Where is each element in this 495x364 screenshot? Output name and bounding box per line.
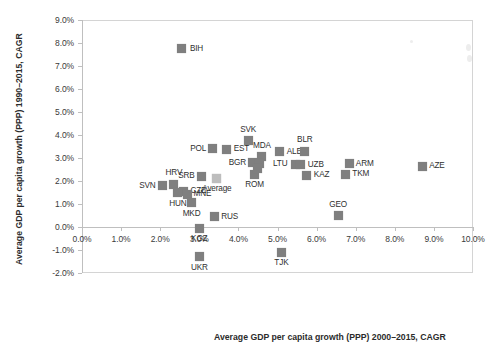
y-axis-tick-label: 7.0% <box>38 61 74 71</box>
data-point-marker <box>208 144 217 153</box>
data-point-marker <box>277 248 286 257</box>
data-point-label: SVK <box>239 125 257 134</box>
data-point-marker <box>173 188 182 197</box>
y-axis-tick <box>78 43 82 44</box>
data-point-marker <box>195 224 204 233</box>
data-point-label: MKD <box>183 209 201 218</box>
y-axis-tick <box>78 250 82 251</box>
y-axis-tick <box>78 20 82 21</box>
x-axis-tick <box>473 227 474 231</box>
x-axis-tick-label: 5.0% <box>256 234 300 244</box>
x-axis-tick <box>317 227 318 231</box>
y-axis-tick <box>78 66 82 67</box>
y-axis-tick <box>78 181 82 182</box>
data-point-label: BLR <box>296 135 314 144</box>
data-point-label: GEO <box>329 200 347 209</box>
scan-artifact <box>467 55 472 62</box>
average-marker <box>212 174 221 183</box>
data-point-marker <box>300 147 309 156</box>
data-point-label: UZB <box>307 160 325 169</box>
data-point-label: TJK <box>273 258 291 267</box>
data-point-label: UKR <box>191 263 209 272</box>
data-point-marker <box>158 181 167 190</box>
y-axis-tick-label: 6.0% <box>38 84 74 94</box>
data-point-label: KAZ <box>313 170 331 179</box>
data-point-label: AZE <box>428 161 446 170</box>
data-point-marker <box>195 252 204 261</box>
data-point-label: HUN <box>169 199 187 208</box>
x-axis-tick-label: 0.0% <box>60 234 104 244</box>
data-point-label: POL <box>189 144 207 153</box>
x-axis-tick-label: 10.0% <box>451 234 495 244</box>
y-axis-tick-label: -2.0% <box>38 268 74 278</box>
data-point-marker <box>275 147 284 156</box>
scatter-chart: Average GDP per capita growth (PPP) 1990… <box>0 0 495 364</box>
data-point-marker <box>187 198 196 207</box>
x-axis-tick <box>395 227 396 231</box>
data-point-marker <box>418 162 427 171</box>
y-axis-title: Average GDP per capita growth (PPP) 1990… <box>14 33 24 265</box>
x-axis-tick <box>356 227 357 231</box>
y-axis-tick-label: -1.0% <box>38 245 74 255</box>
data-point-label: ARM <box>356 159 374 168</box>
x-axis-tick <box>434 227 435 231</box>
data-point-marker <box>345 159 354 168</box>
scan-artifact <box>410 40 413 43</box>
y-axis-tick <box>78 89 82 90</box>
y-axis-tick-label: 4.0% <box>38 130 74 140</box>
y-axis-tick-label: 9.0% <box>38 15 74 25</box>
x-axis-tick-label: 4.0% <box>216 234 260 244</box>
data-point-label: EST <box>233 144 251 153</box>
data-point-marker <box>210 212 219 221</box>
y-axis-tick-label: 1.0% <box>38 199 74 209</box>
x-axis-tick <box>82 227 83 231</box>
data-point-label: TKM <box>352 169 370 178</box>
data-point-label: RUS <box>221 212 239 221</box>
data-point-marker <box>177 44 186 53</box>
data-point-label: HRV <box>165 168 183 177</box>
x-axis-tick <box>121 227 122 231</box>
data-point-marker <box>296 160 305 169</box>
data-point-marker <box>341 170 350 179</box>
data-point-label: BGR <box>228 158 246 167</box>
data-point-label: MNE <box>194 189 212 198</box>
x-axis-tick-label: 1.0% <box>99 234 143 244</box>
y-axis-tick-label: 5.0% <box>38 107 74 117</box>
data-point-marker <box>334 211 343 220</box>
data-point-marker <box>197 172 206 181</box>
x-axis-tick <box>238 227 239 231</box>
x-axis-tick-label: 7.0% <box>334 234 378 244</box>
data-point-label: LTU <box>271 159 289 168</box>
y-axis-tick-label: 2.0% <box>38 176 74 186</box>
y-axis-tick <box>78 273 82 274</box>
x-axis-title: Average GDP per capita growth (PPP) 2000… <box>214 332 446 342</box>
y-axis-tick <box>78 112 82 113</box>
data-point-marker <box>302 171 311 180</box>
scan-artifact <box>466 44 471 51</box>
data-point-label: ROM <box>245 180 263 189</box>
data-point-label: MDA <box>253 141 271 150</box>
data-point-marker <box>253 164 262 173</box>
y-axis-tick <box>78 204 82 205</box>
x-axis-tick-label: 8.0% <box>373 234 417 244</box>
x-axis-tick <box>278 227 279 231</box>
data-point-label: KGZ <box>191 234 209 243</box>
y-axis-tick <box>78 135 82 136</box>
y-axis-tick <box>78 158 82 159</box>
x-axis-tick-label: 9.0% <box>412 234 456 244</box>
y-axis-tick-label: 0.0% <box>38 222 74 232</box>
y-axis-tick-label: 3.0% <box>38 153 74 163</box>
data-point-label: SVN <box>139 181 157 190</box>
data-point-label: BIH <box>188 44 206 53</box>
x-axis-tick <box>160 227 161 231</box>
data-point-marker <box>222 145 231 154</box>
x-axis-tick-label: 6.0% <box>295 234 339 244</box>
y-axis-tick-label: 8.0% <box>38 38 74 48</box>
x-axis-tick-label: 2.0% <box>138 234 182 244</box>
